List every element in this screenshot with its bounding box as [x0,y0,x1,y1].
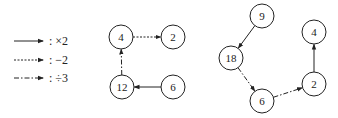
node-label: 4 [118,31,124,43]
legend-item-multiply: : ×2 [14,34,68,48]
node-2: 2 [302,72,326,96]
edge-dashdot-arrow [121,49,122,75]
edge-solid-arrow [238,26,254,48]
node-label: 4 [311,26,317,38]
operation-diagram: : ×2 : −2 : ÷3 42126918624 [0,0,338,118]
legend-label-divide: : ÷3 [49,71,68,85]
legend-label-multiply: : ×2 [49,34,68,48]
nodes: 42126918624 [109,4,326,113]
edge-dashdot-arrow [238,68,255,91]
node-18: 18 [219,46,243,70]
legend-item-divide: : ÷3 [14,71,68,85]
node-6: 6 [250,89,274,113]
node-label: 2 [311,78,317,90]
node-label: 6 [259,95,265,107]
edges [121,26,314,98]
node-2: 2 [161,25,185,49]
node-6: 6 [161,75,185,99]
node-label: 12 [117,81,128,93]
node-9: 9 [250,4,274,28]
node-4: 4 [109,25,133,49]
node-12: 12 [110,75,134,99]
legend-item-subtract: : −2 [14,53,68,67]
node-label: 9 [259,10,265,22]
node-4: 4 [302,20,326,44]
legend: : ×2 : −2 : ÷3 [14,34,68,85]
legend-label-subtract: : −2 [49,53,68,67]
node-label: 18 [226,52,238,64]
edge-dashdot-arrow [273,88,302,97]
node-label: 2 [170,31,176,43]
node-label: 6 [170,81,176,93]
